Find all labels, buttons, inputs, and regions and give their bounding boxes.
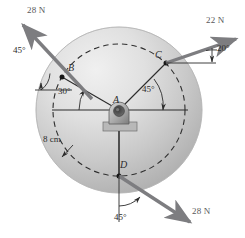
point-label-a: A [113, 95, 119, 105]
angle-label-force-d: 45° [114, 213, 127, 222]
force-label-d: 28 N [192, 207, 211, 216]
pivot-highlight [116, 108, 119, 111]
pivot-bore [114, 106, 125, 117]
angle-label-force-b: 45° [13, 46, 26, 55]
point-label-b: B [68, 63, 74, 73]
point-label-c: C [155, 50, 162, 60]
force-label-c: 22 N [206, 16, 225, 25]
angle-label-force-c: 20° [217, 44, 230, 53]
angle-label-ab: 30° [58, 87, 71, 96]
force-label-b: 28 N [27, 6, 46, 15]
point-label-d: D [120, 160, 127, 170]
point-marker-b [60, 75, 65, 80]
pulley-force-diagram [0, 0, 245, 238]
dimension-label-8cm: 8 cm [43, 135, 61, 144]
angle-label-ac: 45° [142, 85, 155, 94]
